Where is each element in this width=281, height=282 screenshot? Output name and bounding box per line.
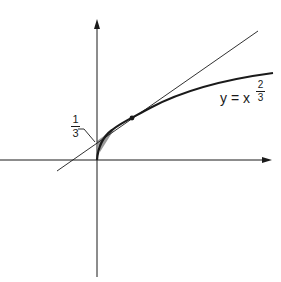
intercept-denominator: 3 xyxy=(72,128,78,139)
exponent-denominator: 3 xyxy=(258,93,264,103)
tangency-point xyxy=(130,116,135,121)
curve-exponent: 2 3 xyxy=(256,80,265,103)
curve xyxy=(97,73,273,160)
intercept-leader-line xyxy=(78,129,95,142)
intercept-numerator: 1 xyxy=(72,114,78,125)
x-axis-arrow-icon xyxy=(262,157,272,163)
curve-label: y = x xyxy=(220,90,250,106)
intercept-label: 1 3 xyxy=(71,114,80,139)
exponent-numerator: 2 xyxy=(258,80,264,90)
y-axis-arrow-icon xyxy=(94,19,100,29)
diagram-canvas xyxy=(0,0,281,282)
